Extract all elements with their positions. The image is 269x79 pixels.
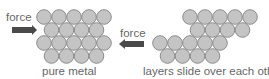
slid-layers-atoms xyxy=(153,10,258,64)
force-arrow-left-icon xyxy=(12,25,37,35)
force-arrow-right-icon xyxy=(119,39,144,49)
diagram-graphics xyxy=(0,0,269,79)
metal-layers-diagram: force force pure metal layers slide over… xyxy=(0,0,269,79)
pure-metal-atoms xyxy=(37,10,112,64)
